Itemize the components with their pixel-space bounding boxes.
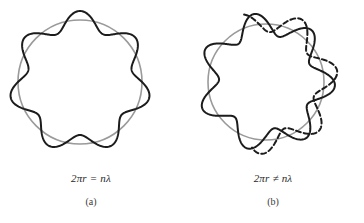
panel-b: 2πr ≠ nλ (b) [182,0,364,223]
equation-b: 2πr ≠ nλ [182,172,364,184]
panel-a-canvas [0,0,182,170]
panel-a: 2πr = nλ (a) [0,0,182,223]
standing-wave-a [11,11,150,147]
panel-label-a: (a) [0,196,182,207]
equation-a: 2πr = nλ [0,172,182,184]
panel-label-b: (b) [182,196,364,207]
panel-b-canvas [182,0,364,170]
figure-container: 2πr = nλ (a) 2πr ≠ nλ (b) [0,0,364,223]
orbit-circle-a [18,20,142,144]
standing-wave-b-solid [202,14,335,149]
